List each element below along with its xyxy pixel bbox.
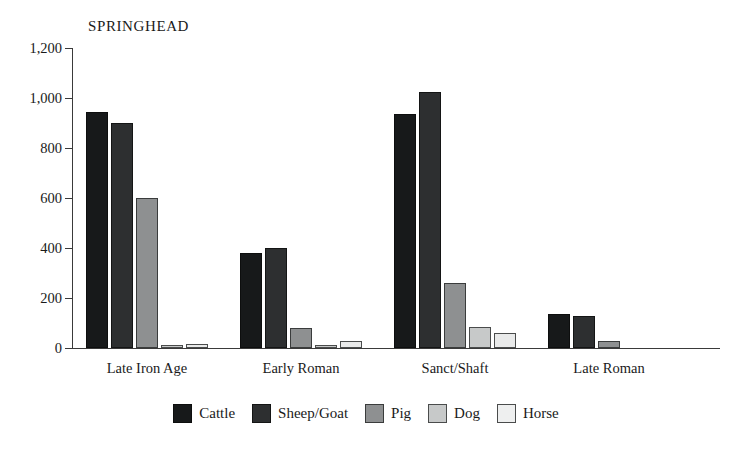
bar-cattle[interactable] bbox=[86, 112, 108, 348]
bar-group bbox=[240, 48, 365, 348]
bar-sheepgoat[interactable] bbox=[111, 123, 133, 348]
bar-cattle[interactable] bbox=[548, 314, 570, 348]
y-tick-label-0: 0 bbox=[6, 340, 62, 357]
legend-item-horse[interactable]: Horse bbox=[497, 404, 559, 423]
chart-title: SPRINGHEAD bbox=[88, 18, 189, 35]
legend-label: Pig bbox=[391, 405, 411, 422]
bar-dog[interactable] bbox=[469, 327, 491, 348]
bar-group bbox=[86, 48, 211, 348]
bar-pig[interactable] bbox=[444, 283, 466, 348]
x-axis-label-lateironage: Late Iron Age bbox=[67, 360, 227, 377]
legend-swatch-pig-icon bbox=[365, 404, 384, 423]
bar-group bbox=[394, 48, 519, 348]
chart-legend: CattleSheep/GoatPigDogHorse bbox=[0, 404, 732, 423]
x-axis-line bbox=[72, 348, 720, 349]
legend-swatch-sheepgoat-icon bbox=[252, 404, 271, 423]
legend-label: Dog bbox=[454, 405, 480, 422]
x-axis-label-lateroman: Late Roman bbox=[529, 360, 689, 377]
legend-swatch-horse-icon bbox=[497, 404, 516, 423]
bar-pig[interactable] bbox=[136, 198, 158, 349]
bar-horse[interactable] bbox=[186, 344, 208, 348]
plot-area bbox=[72, 48, 720, 348]
y-tick-label-600: 600 bbox=[6, 190, 62, 207]
bar-pig[interactable] bbox=[290, 328, 312, 349]
legend-item-sheepgoat[interactable]: Sheep/Goat bbox=[252, 404, 348, 423]
legend-swatch-dog-icon bbox=[428, 404, 447, 423]
legend-swatch-cattle-icon bbox=[173, 404, 192, 423]
legend-label: Horse bbox=[523, 405, 559, 422]
bar-horse[interactable] bbox=[494, 333, 516, 349]
y-tick-label-400: 400 bbox=[6, 240, 62, 257]
bar-chart: SPRINGHEAD 1,200 1,000 800 600 400 200 0… bbox=[0, 0, 732, 453]
bar-sheepgoat[interactable] bbox=[419, 92, 441, 348]
bar-pig[interactable] bbox=[598, 341, 620, 349]
y-tick-label-200: 200 bbox=[6, 290, 62, 307]
legend-item-dog[interactable]: Dog bbox=[428, 404, 480, 423]
bar-group bbox=[548, 48, 673, 348]
bar-sheepgoat[interactable] bbox=[573, 316, 595, 348]
bar-cattle[interactable] bbox=[240, 253, 262, 349]
bar-dog[interactable] bbox=[161, 345, 183, 348]
legend-label: Cattle bbox=[199, 405, 235, 422]
y-tick-label-1200: 1,200 bbox=[6, 40, 62, 57]
legend-item-pig[interactable]: Pig bbox=[365, 404, 411, 423]
x-axis-label-earlyroman: Early Roman bbox=[221, 360, 381, 377]
bar-horse[interactable] bbox=[340, 341, 362, 349]
bar-dog[interactable] bbox=[315, 345, 337, 348]
y-tick-label-800: 800 bbox=[6, 140, 62, 157]
bar-cattle[interactable] bbox=[394, 114, 416, 348]
x-axis-label-sanctshaft: Sanct/Shaft bbox=[375, 360, 535, 377]
legend-label: Sheep/Goat bbox=[278, 405, 348, 422]
legend-item-cattle[interactable]: Cattle bbox=[173, 404, 235, 423]
y-tick-label-1000: 1,000 bbox=[6, 90, 62, 107]
bar-sheepgoat[interactable] bbox=[265, 248, 287, 348]
y-axis-tick-labels: 1,200 1,000 800 600 400 200 0 bbox=[0, 0, 62, 453]
